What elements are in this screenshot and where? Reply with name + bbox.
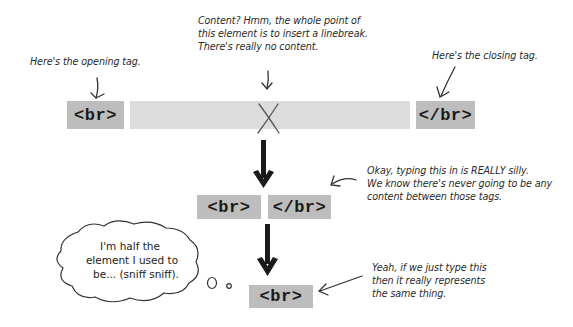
x-mark-icon: [258, 104, 279, 133]
thought-bubble-line-1: I'm half the: [80, 240, 180, 253]
down-arrow-2-icon: [257, 224, 278, 276]
thought-bubble-line-3: be... (sniff sniff).: [76, 268, 196, 281]
opening-tag-arrow-icon: [91, 78, 104, 98]
same-thing-arrow-icon: [319, 276, 362, 295]
down-arrow-1-icon: [253, 140, 274, 188]
content-arrow-icon: [262, 71, 272, 89]
closing-tag-arrow-icon: [437, 67, 455, 97]
thought-bubble-line-2: element I used to: [72, 254, 192, 267]
silly-arrow-icon: [331, 176, 356, 186]
